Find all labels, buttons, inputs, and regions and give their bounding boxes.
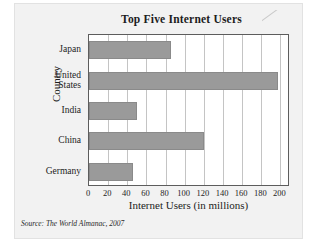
bars-layer <box>89 35 288 185</box>
figure-card: Top Five Internet Users Country JapanUni… <box>14 3 303 239</box>
x-axis-title: Internet Users (in millions) <box>88 199 289 211</box>
bar-row <box>89 163 288 181</box>
plot-area <box>88 34 289 186</box>
bar-germany <box>89 163 133 181</box>
chart-title: Top Five Internet Users <box>15 13 302 25</box>
x-tick-label: 40 <box>122 188 131 198</box>
y-tick-label: Germany <box>46 166 81 177</box>
y-tick-label: Japan <box>59 44 81 55</box>
bar-row <box>89 72 288 90</box>
x-tick-label: 80 <box>160 188 169 198</box>
bar-japan <box>89 41 171 59</box>
y-tick-label: United States <box>55 69 81 90</box>
bar-india <box>89 102 137 120</box>
bar-row <box>89 41 288 59</box>
y-tick-label: India <box>61 105 81 116</box>
y-axis-tick-labels: JapanUnited StatesIndiaChinaGermany <box>33 34 84 186</box>
x-tick-label: 100 <box>177 188 190 198</box>
x-tick-label: 140 <box>216 188 229 198</box>
x-tick-label: 160 <box>235 188 248 198</box>
x-tick-label: 180 <box>254 188 267 198</box>
bar-row <box>89 102 288 120</box>
source-note: Source: The World Almanac, 2007 <box>21 219 124 228</box>
bar-row <box>89 132 288 150</box>
x-tick-label: 200 <box>273 188 286 198</box>
x-tick-label: 120 <box>196 188 209 198</box>
x-tick-label: 60 <box>141 188 150 198</box>
y-tick-label: China <box>58 135 81 146</box>
bar-china <box>89 132 204 150</box>
x-tick-label: 20 <box>103 188 112 198</box>
x-tick-label: 0 <box>86 188 90 198</box>
bar-united-states <box>89 72 278 90</box>
